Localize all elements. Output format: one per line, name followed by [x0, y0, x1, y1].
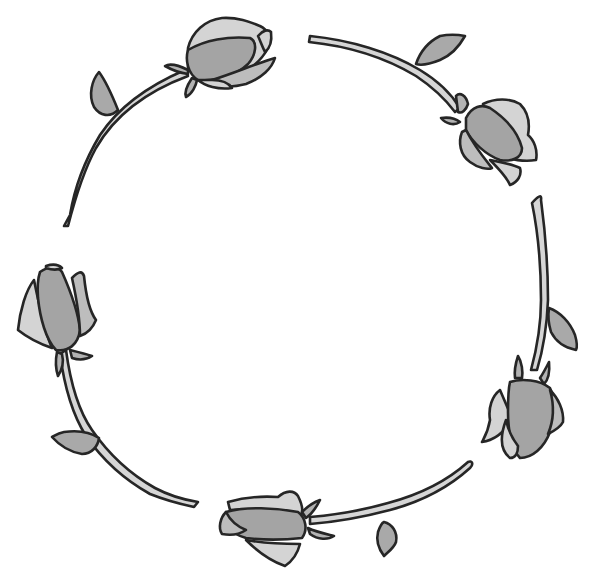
- stem: [310, 461, 472, 524]
- sepal: [308, 528, 334, 539]
- stem: [60, 350, 198, 507]
- petal-tip: [46, 265, 62, 270]
- stem: [64, 70, 188, 226]
- sepal: [441, 118, 460, 124]
- stem: [531, 196, 548, 370]
- rose-right: [482, 196, 577, 458]
- rose-wreath-illustration: [0, 0, 597, 585]
- leaf: [377, 522, 396, 556]
- sepal: [515, 356, 523, 378]
- rose-top-left: [64, 18, 275, 226]
- rose-left: [18, 265, 198, 507]
- rose-top-right: [309, 35, 537, 185]
- leaf: [91, 72, 118, 115]
- sepal: [165, 65, 188, 74]
- leaf: [52, 431, 99, 454]
- petal-front: [490, 160, 521, 185]
- leaf: [548, 308, 576, 350]
- sepal: [540, 362, 549, 384]
- leaf: [416, 35, 465, 65]
- rose-bottom: [220, 461, 472, 566]
- sepal: [70, 350, 92, 359]
- petal-lower: [246, 540, 300, 566]
- sepal: [185, 78, 197, 97]
- sepal: [456, 94, 468, 112]
